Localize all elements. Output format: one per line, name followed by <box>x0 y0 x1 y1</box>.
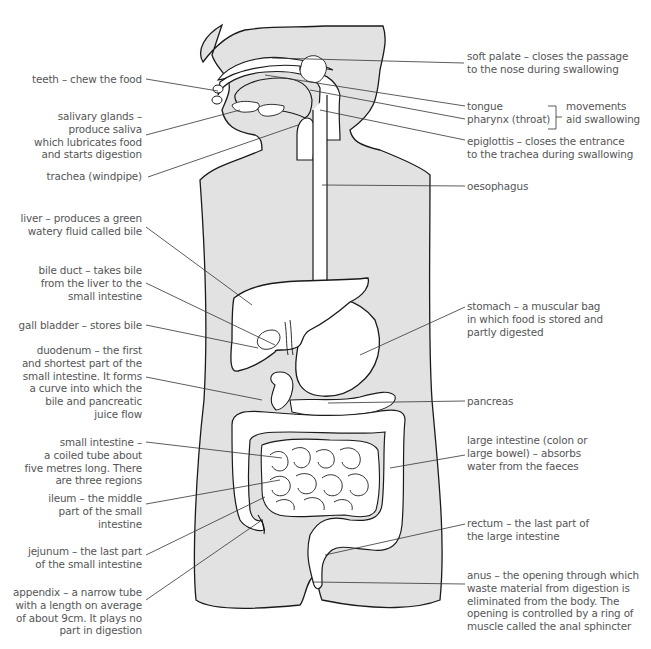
label-trachea: trachea (windpipe) <box>46 170 142 183</box>
label-ileum: ileum – the middle part of the small int… <box>48 492 142 530</box>
label-liver: liver – produces a green watery fluid ca… <box>21 212 142 238</box>
label-large-intestine: large intestine (colon or large bowel) –… <box>467 434 587 472</box>
label-pharynx: pharynx (throat) <box>467 113 550 126</box>
teeth-lower <box>212 96 222 104</box>
label-movements-note: movements aid swallowing <box>566 100 640 126</box>
small-intestine <box>261 439 379 517</box>
label-epiglottis: epiglottis – closes the entrance to the … <box>467 135 633 161</box>
label-tongue: tongue <box>467 100 503 113</box>
label-bile-duct: bile duct – takes bile from the liver to… <box>39 264 143 302</box>
label-teeth: teeth – chew the food <box>32 73 142 86</box>
label-pancreas: pancreas <box>467 395 513 408</box>
label-jejunum: jejunum – the last part of the small int… <box>28 545 142 571</box>
label-small-intestine: small intestine – a coiled tube about fi… <box>25 436 142 487</box>
label-soft-palate: soft palate – closes the passage to the … <box>467 50 628 76</box>
label-rectum: rectum – the last part of the large inte… <box>467 517 589 543</box>
label-stomach: stomach – a muscular bag in which food i… <box>467 300 603 338</box>
label-appendix: appendix – a narrow tube with a length o… <box>13 586 142 637</box>
label-oesophagus: oesophagus <box>467 180 528 193</box>
label-gall-bladder: gall bladder – stores bile <box>19 319 142 332</box>
salivary-gland <box>232 101 259 112</box>
label-anus: anus – the opening through which waste m… <box>467 569 639 633</box>
trachea <box>297 118 315 160</box>
label-salivary-glands: salivary glands – produce saliva which l… <box>34 110 142 161</box>
label-duodenum: duodenum – the first and shortest part o… <box>22 344 142 421</box>
teeth-upper <box>213 85 223 93</box>
oesophagus <box>313 95 327 295</box>
